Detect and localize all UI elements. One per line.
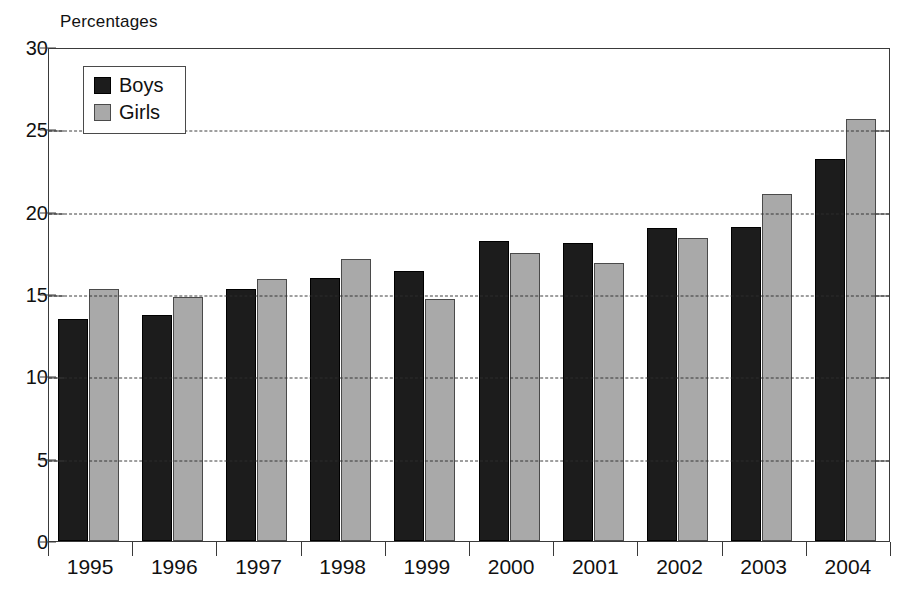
x-axis-label-1999: 1999: [404, 556, 451, 577]
bar-boys-1997: [226, 289, 256, 541]
bar-boys-2002: [647, 228, 677, 541]
bar-girls-2001: [594, 263, 624, 541]
bar-boys-1998: [310, 278, 340, 541]
x-axis-tick-mark: [48, 542, 49, 556]
y-axis-tick-mark: [40, 212, 56, 213]
bar-boys-2000: [479, 241, 509, 541]
x-axis-label-2003: 2003: [740, 556, 787, 577]
y-axis-tick-mark: [40, 459, 56, 460]
x-axis-tick-mark: [385, 542, 386, 556]
x-axis-label-1995: 1995: [67, 556, 114, 577]
bar-boys-1995: [58, 319, 88, 541]
x-axis-tick-mark: [722, 542, 723, 556]
x-axis-tick-mark: [301, 542, 302, 556]
bar-boys-1996: [142, 315, 172, 541]
legend: Boys Girls: [83, 66, 186, 134]
x-axis-tick-mark: [216, 542, 217, 556]
x-axis-tick-mark: [469, 542, 470, 556]
bar-girls-1999: [425, 299, 455, 541]
legend-swatch-girls-icon: [94, 104, 111, 121]
bar-girls-2003: [762, 194, 792, 541]
x-axis-label-2000: 2000: [488, 556, 535, 577]
gridline-5: [49, 460, 889, 461]
bar-girls-2002: [678, 238, 708, 541]
legend-item-girls: Girls: [94, 102, 160, 122]
y-axis-tick-mark: [40, 295, 56, 296]
x-axis-tick-mark: [132, 542, 133, 556]
bar-girls-1995: [89, 289, 119, 541]
bar-chart: Percentages 051015202530 199519961997199…: [0, 0, 906, 607]
bar-boys-2001: [563, 243, 593, 541]
y-axis-tick-mark: [40, 130, 56, 131]
y-axis-tick-mark: [40, 377, 56, 378]
legend-label-boys: Boys: [119, 75, 163, 95]
bar-boys-2004: [815, 159, 845, 541]
x-axis-label-2002: 2002: [656, 556, 703, 577]
gridline-15: [49, 296, 889, 297]
x-axis-tick-mark: [806, 542, 807, 556]
legend-swatch-boys-icon: [94, 77, 111, 94]
gridline-20: [49, 213, 889, 214]
legend-item-boys: Boys: [94, 75, 163, 95]
y-axis-title: Percentages: [60, 12, 158, 32]
bar-girls-1998: [341, 259, 371, 541]
page-scan-edge: [0, 601, 906, 607]
x-axis-label-1997: 1997: [235, 556, 282, 577]
legend-label-girls: Girls: [119, 102, 160, 122]
x-axis-label-1998: 1998: [319, 556, 366, 577]
bar-boys-2003: [731, 227, 761, 542]
bar-girls-1996: [173, 297, 203, 541]
y-axis-tick-mark: [40, 48, 56, 49]
bar-girls-2004: [846, 119, 876, 541]
x-axis-label-1996: 1996: [151, 556, 198, 577]
x-axis-tick-mark: [890, 542, 891, 556]
x-axis-tick-mark: [637, 542, 638, 556]
x-axis-label-2004: 2004: [825, 556, 872, 577]
bar-girls-1997: [257, 279, 287, 541]
bar-boys-1999: [394, 271, 424, 541]
x-axis-tick-mark: [553, 542, 554, 556]
x-axis-label-2001: 2001: [572, 556, 619, 577]
gridline-10: [49, 378, 889, 379]
